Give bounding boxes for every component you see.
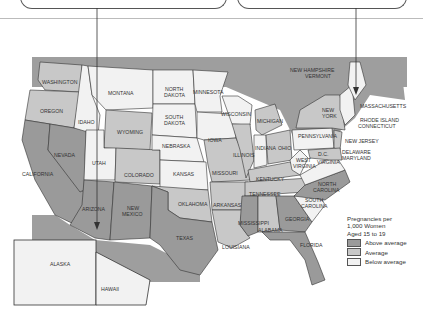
label-minnesota: MINNESOTA xyxy=(193,89,224,95)
label-california: CALIFORNIA xyxy=(22,171,54,177)
us-map: WASHINGTON OREGON IDAHO MONTANA NORTH DA… xyxy=(0,0,423,314)
label-washington: WASHINGTON xyxy=(42,79,78,85)
label-georgia: GEORGIA xyxy=(285,216,310,222)
label-connecticut: CONNECTICUT xyxy=(358,123,397,129)
label-texas: TEXAS xyxy=(176,235,194,241)
label-missouri: MISSOURI xyxy=(212,170,238,176)
legend-item-below: Below average xyxy=(347,258,407,266)
swatch-icon xyxy=(347,258,361,266)
label-wyoming: WYOMING xyxy=(117,129,143,135)
label-mississippi: MISSISSIPPI xyxy=(238,220,269,226)
label-nevada: NEVADA xyxy=(54,152,75,158)
label-utah: UTAH xyxy=(92,160,106,166)
label-south-carolina: CAROLINA xyxy=(301,203,328,209)
label-florida: FLORIDA xyxy=(300,242,323,248)
label-louisiana: LOUISIANA xyxy=(222,244,250,250)
label-indiana: INDIANA xyxy=(255,145,277,151)
label-north-carolina: CAROLINA xyxy=(313,187,340,193)
label-kansas: KANSAS xyxy=(173,171,195,177)
label-alaska: ALASKA xyxy=(50,261,71,267)
legend-item-above: Above average xyxy=(347,239,407,247)
label-alabama: ALABAMA xyxy=(258,227,283,233)
legend-label: Above average xyxy=(365,239,407,246)
swatch-icon xyxy=(347,248,361,256)
label-oregon: OREGON xyxy=(40,108,63,114)
label-ohio: OHIO xyxy=(278,145,291,151)
label-vermont: VERMONT xyxy=(305,73,332,79)
state-indiana xyxy=(254,135,267,168)
label-north-dakota: DAKOTA xyxy=(164,92,185,98)
label-michigan: MICHIGAN xyxy=(257,118,283,124)
label-new-mexico: MEXICO xyxy=(122,211,142,217)
legend: Pregnancies per 1,000 Women Aged 15 to 1… xyxy=(347,215,407,266)
label-arkansas: ARKANSAS xyxy=(213,202,242,208)
alaska-inset xyxy=(14,240,96,305)
label-arizona: ARIZONA xyxy=(82,206,106,212)
label-iowa: IOWA xyxy=(208,137,222,143)
legend-title: Pregnancies per 1,000 Women Aged 15 to 1… xyxy=(347,215,407,237)
label-massachusetts: MASSACHUSETTS xyxy=(360,103,407,109)
label-idaho: IDAHO xyxy=(78,119,94,125)
label-tennessee: TENNESSEE xyxy=(249,191,281,197)
label-maryland: MARYLAND xyxy=(342,155,371,161)
label-illinois: ILLINOIS xyxy=(233,152,255,158)
legend-title-line: 1,000 Women xyxy=(347,222,407,229)
label-virginia: VIRGINIA xyxy=(317,159,340,165)
legend-title-line: Pregnancies per xyxy=(347,215,407,222)
label-colorado: COLORADO xyxy=(124,172,154,178)
legend-label: Below average xyxy=(365,258,406,265)
label-pennsylvania: PENNSYLVANIA xyxy=(298,133,338,139)
label-new-jersey: NEW JERSEY xyxy=(345,138,379,144)
legend-label: Average xyxy=(365,249,388,256)
label-west-virginia: VIRGINIA xyxy=(293,163,316,169)
state-washington xyxy=(38,62,82,92)
label-kentucky: KENTUCKY xyxy=(256,176,285,182)
label-dc: D.C. xyxy=(318,151,328,157)
label-montana: MONTANA xyxy=(108,90,134,96)
label-new-york: YORK xyxy=(322,113,337,119)
swatch-icon xyxy=(347,239,361,247)
label-nebraska: NEBRASKA xyxy=(162,143,191,149)
legend-item-average: Average xyxy=(347,248,407,256)
label-wisconsin: WISCONSIN xyxy=(221,111,251,117)
legend-title-line: Aged 15 to 19 xyxy=(347,230,407,237)
label-oklahoma: OKLAHOMA xyxy=(178,201,208,207)
label-south-dakota: DAKOTA xyxy=(164,120,185,126)
state-colorado xyxy=(115,148,160,184)
state-pennsylvania xyxy=(292,128,334,150)
label-hawaii: HAWAII xyxy=(101,286,119,292)
